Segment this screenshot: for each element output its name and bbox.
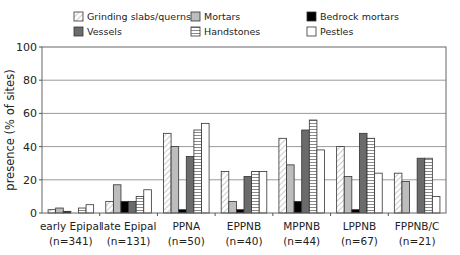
bar-vessels [302, 130, 310, 213]
bar-vessels [417, 158, 425, 213]
bar-handstones [425, 158, 433, 213]
bar-pestles [86, 205, 94, 213]
legend-label: Vessels [87, 26, 122, 37]
x-category-label: PPNA [172, 220, 201, 232]
legend-label: Mortars [204, 11, 240, 22]
bar-chart: Grinding slabs/quernsMortarsBedrock mort… [0, 0, 460, 255]
legend-item-grinding-slabs-querns: Grinding slabs/querns [74, 11, 191, 22]
bar-grinding-slabs-querns [106, 201, 114, 213]
legend-label: Grinding slabs/querns [87, 11, 191, 22]
bar-vessels [359, 133, 367, 213]
legend-item-handstones: Handstones [191, 26, 260, 37]
bar-grinding-slabs-querns [394, 173, 402, 213]
y-tick-label: 40 [23, 141, 37, 154]
x-category-count: (n=341) [49, 235, 93, 247]
bar-pestles [259, 172, 267, 214]
y-tick-label: 60 [23, 107, 37, 120]
bar-handstones [309, 120, 317, 213]
y-tick-label: 0 [30, 207, 37, 220]
x-axis: early Epipal(n=341)late Epipal(n=131)PPN… [40, 213, 440, 247]
y-tick-label: 80 [23, 74, 37, 87]
bar-grinding-slabs-querns [163, 133, 171, 213]
bar-vessels [244, 176, 252, 213]
bar-mortars [344, 176, 352, 213]
bar-mortars [287, 165, 295, 213]
legend-item-bedrock-mortars: Bedrock mortars [307, 11, 399, 22]
legend-label: Handstones [204, 26, 260, 37]
x-category-label: EPPNB [227, 220, 261, 232]
legend-item-pestles: Pestles [307, 26, 353, 37]
bar-pestles [375, 173, 383, 213]
bar-vessels [186, 157, 194, 213]
legend-item-mortars: Mortars [191, 11, 240, 22]
x-category-count: (n=50) [168, 235, 205, 247]
legend-swatch [191, 12, 200, 21]
gridlines [42, 80, 446, 180]
y-tick-label: 20 [23, 174, 37, 187]
legend: Grinding slabs/quernsMortarsBedrock mort… [74, 11, 399, 37]
legend-swatch [307, 12, 316, 21]
bar-pestles [317, 150, 325, 213]
bar-grinding-slabs-querns [279, 138, 287, 213]
bar-handstones [78, 208, 86, 213]
bar-grinding-slabs-querns [221, 172, 229, 214]
legend-item-vessels: Vessels [74, 26, 122, 37]
bar-bedrock-mortars [121, 201, 129, 213]
bar-handstones [194, 130, 202, 213]
x-category-label: late Epipal [101, 220, 157, 232]
x-category-count: (n=40) [225, 235, 262, 247]
bar-vessels [129, 201, 137, 213]
bar-mortars [402, 181, 410, 213]
bar-mortars [171, 147, 179, 213]
x-category-count: (n=67) [341, 235, 378, 247]
x-category-label: MPPNB [283, 220, 320, 232]
legend-swatch [74, 12, 83, 21]
bar-handstones [136, 196, 144, 213]
x-category-count: (n=131) [107, 235, 151, 247]
x-category-count: (n=44) [283, 235, 320, 247]
bar-mortars [113, 185, 121, 213]
x-category-count: (n=21) [399, 235, 436, 247]
legend-swatch [191, 27, 200, 36]
bar-handstones [252, 172, 260, 214]
bar-mortars [56, 208, 64, 213]
legend-label: Bedrock mortars [320, 11, 399, 22]
x-category-label: early Epipal [40, 220, 102, 232]
legend-swatch [307, 27, 316, 36]
legend-label: Pestles [320, 26, 353, 37]
bar-handstones [367, 138, 375, 213]
bar-grinding-slabs-querns [337, 147, 345, 213]
bar-pestles [201, 123, 209, 213]
bar-pestles [432, 196, 440, 213]
bar-pestles [144, 190, 152, 213]
x-category-label: LPPNB [343, 220, 377, 232]
y-tick-label: 100 [16, 41, 37, 54]
y-axis-label: presence (% of sites) [3, 69, 17, 190]
y-axis: 020406080100 [16, 41, 42, 220]
legend-swatch [74, 27, 83, 36]
x-category-label: FPPNB/C [395, 220, 440, 232]
bars [48, 120, 440, 213]
bar-mortars [229, 201, 237, 213]
bar-bedrock-mortars [294, 201, 302, 213]
